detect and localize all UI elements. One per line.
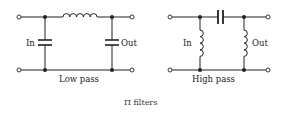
pi-filters-diagram: In Out Low pass In Out High pass Π filte…	[0, 0, 282, 118]
figure-caption: Π filters	[124, 99, 157, 107]
series-inductor-icon	[63, 14, 97, 17]
high-pass-output-label: Out	[252, 39, 268, 48]
low-pass-output-label: Out	[121, 39, 137, 48]
shunt-inductor-icon	[200, 30, 203, 56]
junction-dots	[43, 15, 246, 72]
high-pass-title: High pass	[192, 75, 235, 84]
high-pass-input-label: In	[183, 39, 192, 48]
low-pass-input-label: In	[26, 39, 35, 48]
low-pass-circuit	[21, 14, 130, 70]
low-pass-title: Low pass	[59, 75, 99, 84]
terminal-circles	[17, 15, 270, 72]
